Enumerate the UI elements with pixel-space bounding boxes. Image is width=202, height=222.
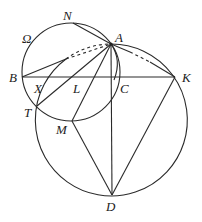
label-T: T (24, 105, 32, 120)
segment-AT (37, 44, 111, 106)
segment-AD (111, 44, 112, 195)
label-X: X (33, 81, 43, 96)
diagram-canvas: Ω N A B K X L C T M D (0, 0, 202, 222)
label-omega: Ω (22, 31, 31, 46)
segment-NA (73, 23, 111, 44)
label-K: K (181, 70, 192, 85)
label-A: A (114, 30, 123, 45)
point-A-marker (109, 42, 112, 45)
geometry-diagram: Ω N A B K X L C T M D (0, 0, 202, 222)
arc-A-C (111, 44, 117, 80)
label-L: L (72, 81, 80, 96)
segment-MD (72, 121, 112, 195)
label-N: N (62, 8, 73, 23)
segment-BP (22, 59, 66, 77)
label-B: B (9, 70, 17, 85)
label-M: M (55, 122, 68, 137)
label-D: D (105, 199, 116, 214)
label-C: C (120, 81, 129, 96)
